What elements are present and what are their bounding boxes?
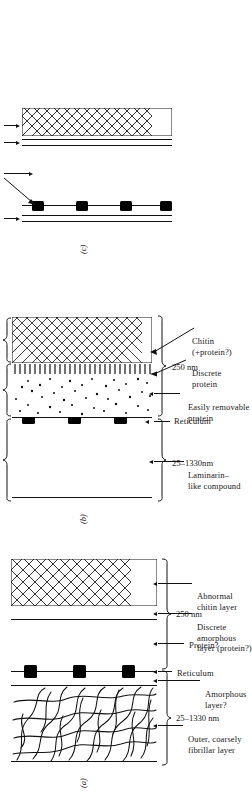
panel-b-leader-reticulum (154, 421, 170, 422)
panel-c-discrete-amorphous-line-2 (22, 139, 172, 140)
panel-b-chitin-layer (12, 317, 152, 363)
panel-a-discrete-amorphous-line (11, 619, 157, 620)
panel-c-attenuated-inner-line (22, 215, 172, 216)
panel-c-leader-amorphous (4, 173, 30, 174)
label-chitin: Chitin (+protein?) (192, 336, 232, 357)
panel-b-brace-150 (2, 363, 11, 417)
panel-c-arrowhead-amorphous (29, 172, 33, 176)
figure-root: (a) (0, 0, 235, 796)
label-discrete-amorphous: Discrete amorphous layer (protein?) (197, 622, 235, 654)
panel-a-fibrillar-layer (11, 686, 157, 762)
panel-b-brace-87 (2, 418, 11, 502)
panel-a-granule (24, 665, 37, 678)
panel-c-arrowhead-attenuated (16, 217, 20, 221)
panel-b-arrowhead-laminarin (149, 460, 153, 464)
panel-c-arrowhead-discrete-amorphous (16, 141, 20, 145)
panel-a-leader-fibrillar (158, 725, 183, 726)
panel-c-tag: (c) (78, 245, 88, 254)
panel-b-leader-chitin (150, 324, 196, 358)
panel-b-arrowhead-easily-removable (149, 392, 153, 396)
panel-b: (b) (0, 262, 235, 534)
panel-a-leader-amorphous (158, 680, 200, 681)
panel-b-tag: (b) (78, 514, 88, 524)
panel-c-leader-abnormal-reticulum (2, 174, 38, 208)
panel-a-fibrillar-outer-edge (11, 761, 157, 762)
panel-a-fibrillar-inner-edge (11, 685, 157, 686)
label-laminarin-like-compound: Laminarin– like compound (188, 470, 235, 491)
panel-a-leader-reticulum (158, 671, 172, 672)
panel-a-arrowhead-chitin (153, 582, 157, 586)
panel-c: (c) (0, 0, 235, 262)
panel-b-brace-68 (2, 317, 11, 363)
panel-a-arrowhead-fibrillar (153, 724, 157, 728)
panel-a-arrowhead-discrete (153, 612, 157, 616)
panel-b-outer-edge (12, 497, 152, 498)
panel-c-attenuated-outer-line (22, 221, 172, 222)
panel-c-granule (120, 201, 132, 211)
panel-b-leader-discrete-protein (150, 356, 188, 378)
panel-a-tag: (a) (78, 778, 88, 788)
panel-b-leader-laminarin (154, 461, 184, 462)
panel-a-brace-inner (162, 558, 172, 670)
panel-b-dimension-outer: 25–1330nm (172, 458, 213, 468)
label-reticulum: Reticulum (177, 668, 214, 679)
panel-b-leader-easily-removable (154, 393, 180, 394)
panel-a-granule (122, 665, 135, 678)
panel-c-arrowhead-abnormal-chitin (16, 124, 20, 128)
panel-a-dimension-outer: 25–1330 nm (176, 713, 219, 723)
panel-a-brace-outer (162, 670, 172, 766)
panel-c-granule (160, 201, 172, 211)
label-outer-fibrillar: Outer, coarsely fibrillar layer (188, 734, 235, 755)
panel-a-chitin-layer (11, 559, 157, 606)
panel-a-leader-protein (158, 643, 184, 644)
label-abnormal-chitin: Abnormal chitin layer (197, 591, 235, 612)
panel-b-brace-outer (158, 418, 167, 502)
panel-a-arrowhead-amorphous (153, 679, 157, 683)
panel-a-leader-chitin (158, 583, 192, 584)
panel-b-arrowhead-reticulum (145, 420, 149, 424)
panel-b-easily-removable-protein (12, 375, 152, 417)
label-easily-removable-protein: Easily removable protein (188, 402, 235, 423)
panel-a-arrowhead-reticulum (153, 670, 157, 674)
panel-b-discrete-protein (12, 363, 152, 375)
panel-c-granule (76, 201, 88, 211)
panel-c-abnormal-chitin-layer (22, 108, 172, 136)
panel-a-arrowhead-protein (153, 642, 157, 646)
panel-a-leader-discrete (158, 613, 192, 614)
panel-a: (a) (0, 534, 235, 796)
label-amorphous-layer: Amorphous layer? (205, 689, 235, 710)
panel-a-granule (73, 665, 86, 678)
panel-c-discrete-amorphous-line-1 (22, 145, 172, 146)
panel-c-abnormal-reticulum-line (22, 205, 172, 206)
label-discrete-protein: Discrete protein (192, 368, 221, 389)
